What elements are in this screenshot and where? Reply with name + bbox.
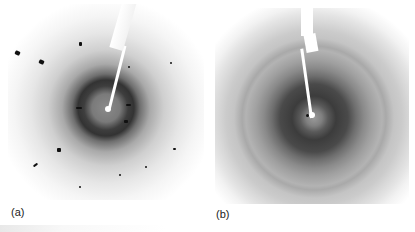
beam-center	[309, 112, 315, 118]
diffraction-spot	[119, 174, 121, 176]
diffraction-spot	[79, 186, 81, 188]
beam-center-dot	[306, 114, 309, 117]
diffraction-spot	[57, 148, 61, 152]
beamstop-holder	[301, 8, 313, 36]
diffraction-spot	[126, 104, 131, 106]
beam-center	[105, 106, 111, 112]
diffraction-spot	[128, 66, 130, 68]
cropped-caption	[0, 225, 415, 232]
diffraction-spot	[124, 120, 128, 123]
diffraction-spot	[76, 107, 82, 109]
diffraction-spot	[145, 166, 147, 168]
diffraction-image-b	[215, 8, 409, 204]
diffraction-spot	[170, 62, 172, 64]
diffraction-image-a	[8, 4, 204, 200]
panel-label-a: (a)	[11, 206, 24, 218]
diffraction-spot	[79, 42, 82, 46]
diffuse-ring	[8, 4, 204, 200]
diffraction-spot	[173, 148, 176, 150]
panel-label-b: (b)	[216, 208, 229, 220]
